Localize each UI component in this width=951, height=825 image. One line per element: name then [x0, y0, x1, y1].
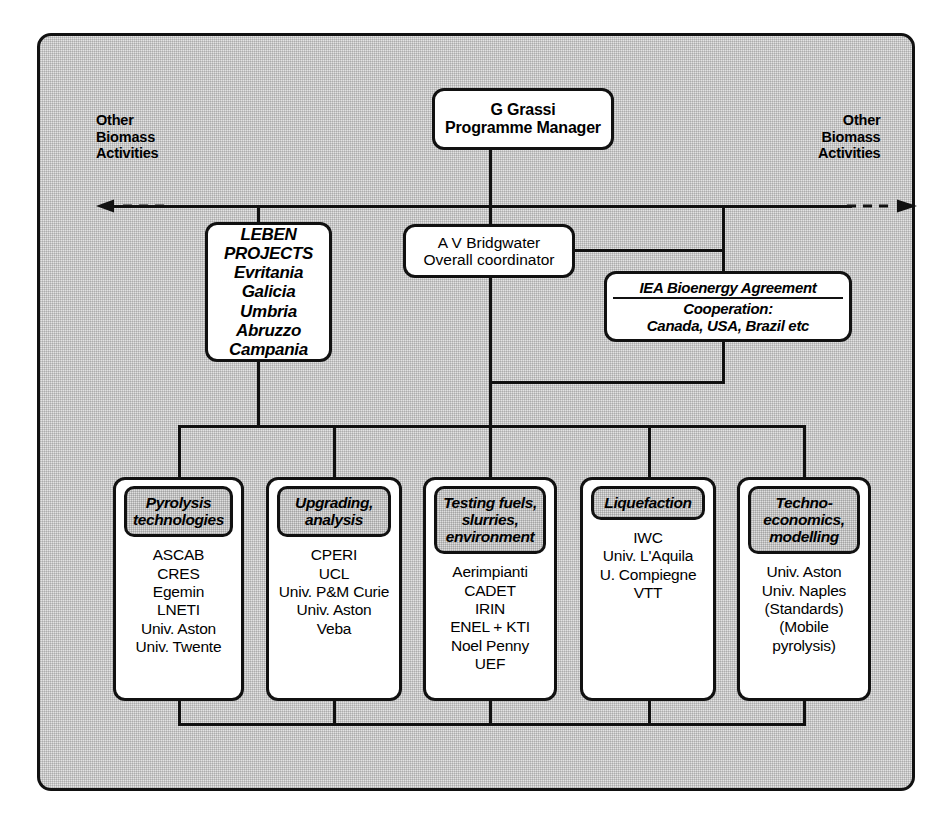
connector-bottom-stub-3	[489, 699, 492, 726]
column-4-header: Liquefaction	[591, 486, 705, 520]
connector-bus-right-drop	[722, 205, 725, 275]
leben-project-campania: Campania	[229, 340, 308, 359]
column-techno-economics-modelling: Techno- economics, modelling Univ. Aston…	[737, 477, 871, 701]
leben-title-line-2: PROJECTS	[224, 244, 313, 263]
connector-coordinator-stem	[489, 278, 492, 427]
coordinator-role: Overall coordinator	[424, 251, 555, 268]
list-item: CPERI	[279, 546, 389, 564]
column-1-header-line-1: Pyrolysis	[146, 494, 211, 511]
list-item: (Standards)	[762, 600, 846, 618]
label-left-line-1: Other	[96, 112, 158, 129]
column-1-header: Pyrolysis technologies	[124, 486, 233, 537]
column-2-members: CPERI UCL Univ. P&M Curie Univ. Aston Ve…	[279, 546, 389, 638]
column-5-header-line-2: economics,	[763, 511, 844, 528]
list-item: Univ. Aston	[279, 601, 389, 619]
connector-bottom-stub-4	[648, 699, 651, 726]
connector-leben-stem	[257, 362, 260, 427]
connector-drop-col-1	[178, 425, 181, 479]
column-5-members: Univ. Aston Univ. Naples (Standards) (Mo…	[762, 563, 846, 655]
column-5-header-line-1: Techno-	[776, 494, 833, 511]
label-right-line-3: Activities	[818, 145, 880, 162]
list-item: Noel Penny	[450, 637, 530, 655]
column-3-header: Testing fuels, slurries, environment	[434, 486, 546, 554]
list-item: pyrolysis)	[762, 637, 846, 655]
list-item: UEF	[450, 655, 530, 673]
column-testing-fuels-slurries-environment: Testing fuels, slurries, environment Aer…	[423, 477, 557, 701]
connector-drop-col-5	[803, 425, 806, 479]
iea-header: IEA Bioenergy Agreement	[613, 279, 843, 299]
list-item: Univ. L'Aquila	[600, 547, 697, 565]
label-right-line-2: Biomass	[818, 129, 880, 146]
list-item: Univ. Aston	[762, 563, 846, 581]
column-3-header-line-3: environment	[446, 528, 535, 545]
manager-role: Programme Manager	[445, 119, 601, 137]
column-2-header-line-2: analysis	[305, 511, 363, 528]
column-3-members: Aerimpianti CADET IRIN ENEL + KTI Noel P…	[450, 563, 530, 674]
node-overall-coordinator: A V Bridgwater Overall coordinator	[403, 224, 575, 278]
label-right-line-1: Other	[818, 112, 880, 129]
connector-iea-to-coordinator	[489, 381, 725, 384]
connector-main-bus	[112, 205, 852, 208]
node-programme-manager: G Grassi Programme Manager	[432, 88, 614, 150]
node-leben-projects: LEBEN PROJECTS Evritania Galicia Umbria …	[205, 222, 332, 362]
column-pyrolysis-technologies: Pyrolysis technologies ASCAB CRES Egemin…	[113, 477, 244, 701]
column-1-header-line-2: technologies	[133, 511, 224, 528]
column-upgrading-analysis: Upgrading, analysis CPERI UCL Univ. P&M …	[266, 477, 402, 701]
column-3-header-line-1: Testing fuels,	[443, 494, 537, 511]
list-item: Univ. P&M Curie	[279, 583, 389, 601]
connector-drop-col-3	[489, 425, 492, 479]
column-4-members: IWC Univ. L'Aquila U. Compiegne VTT	[600, 529, 697, 603]
iea-cooperation-countries: Canada, USA, Brazil etc	[647, 318, 809, 335]
node-iea-bioenergy-agreement: IEA Bioenergy Agreement Cooperation: Can…	[604, 271, 852, 342]
list-item: CRES	[136, 565, 222, 583]
connector-bottom-stub-5	[803, 699, 806, 726]
list-item: VTT	[600, 584, 697, 602]
column-4-header-line-1: Liquefaction	[604, 494, 691, 511]
list-item: U. Compiegne	[600, 566, 697, 584]
leben-project-abruzzo: Abruzzo	[236, 321, 301, 340]
list-item: LNETI	[136, 601, 222, 619]
column-liquefaction: Liquefaction IWC Univ. L'Aquila U. Compi…	[580, 477, 716, 701]
list-item: ENEL + KTI	[450, 618, 530, 636]
arrow-right-other-biomass	[845, 196, 917, 216]
list-item: Univ. Aston	[136, 620, 222, 638]
list-item: CADET	[450, 582, 530, 600]
label-left-line-2: Biomass	[96, 129, 158, 146]
list-item: IWC	[600, 529, 697, 547]
connector-manager-stem	[489, 150, 492, 207]
iea-cooperation-label: Cooperation:	[683, 301, 773, 318]
list-item: IRIN	[450, 600, 530, 618]
list-item: (Mobile	[762, 618, 846, 636]
column-5-header: Techno- economics, modelling	[748, 486, 860, 554]
list-item: Univ. Twente	[136, 638, 222, 656]
list-item: Aerimpianti	[450, 563, 530, 581]
connector-distribution-bar	[178, 425, 806, 428]
arrow-left-other-biomass	[96, 196, 166, 216]
connector-bottom-stub-2	[333, 699, 336, 726]
manager-name: G Grassi	[490, 101, 555, 119]
column-3-header-line-2: slurries,	[462, 511, 519, 528]
column-2-header-line-1: Upgrading,	[295, 494, 373, 511]
column-1-members: ASCAB CRES Egemin LNETI Univ. Aston Univ…	[136, 546, 222, 657]
list-item: UCL	[279, 565, 389, 583]
leben-project-evritania: Evritania	[234, 263, 303, 282]
label-other-biomass-right: Other Biomass Activities	[818, 112, 880, 162]
connector-bottom-stub-1	[178, 699, 181, 726]
list-item: ASCAB	[136, 546, 222, 564]
list-item: Veba	[279, 620, 389, 638]
connector-iea-down	[722, 342, 725, 384]
label-other-biomass-left: Other Biomass Activities	[96, 112, 158, 162]
column-5-header-line-3: modelling	[769, 528, 839, 545]
connector-drop-col-4	[648, 425, 651, 479]
leben-project-galicia: Galicia	[242, 282, 296, 301]
diagram-canvas: Other Biomass Activities Other Biomass A…	[0, 0, 951, 825]
list-item: Egemin	[136, 583, 222, 601]
label-left-line-3: Activities	[96, 145, 158, 162]
list-item: Univ. Naples	[762, 582, 846, 600]
leben-title-line-1: LEBEN	[240, 225, 296, 244]
leben-project-umbria: Umbria	[240, 302, 297, 321]
column-2-header: Upgrading, analysis	[277, 486, 391, 537]
connector-drop-col-2	[333, 425, 336, 479]
connector-coordinator-to-iea-stub	[573, 249, 725, 252]
connector-bottom-bar	[178, 723, 806, 726]
